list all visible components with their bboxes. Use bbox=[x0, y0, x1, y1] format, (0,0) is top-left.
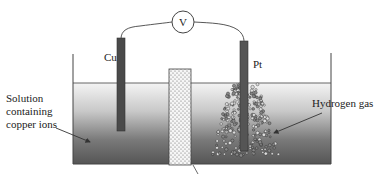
solution bbox=[73, 83, 331, 164]
platinum-electrode bbox=[240, 41, 248, 151]
voltmeter: V bbox=[172, 11, 194, 33]
solution-label-line3: copper ions bbox=[6, 118, 57, 131]
cu-electrode-label: Cu bbox=[104, 51, 117, 64]
hydrogen-gas-label: Hydrogen gas bbox=[312, 97, 373, 110]
copper-electrode bbox=[117, 38, 125, 131]
solution-label-line2: containing bbox=[6, 105, 52, 118]
wire-left bbox=[121, 22, 172, 39]
electrochemical-cell-diagram: V bbox=[0, 0, 379, 175]
pt-electrode-label: Pt bbox=[253, 58, 262, 71]
barrier-pointer-line bbox=[193, 165, 198, 174]
porous-barrier bbox=[169, 69, 191, 165]
wire-right bbox=[194, 22, 244, 42]
voltmeter-symbol: V bbox=[179, 16, 187, 28]
solution-label-line1: Solution bbox=[6, 92, 43, 105]
